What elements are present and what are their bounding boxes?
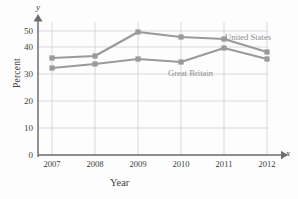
series-label-united-states: United States bbox=[225, 32, 271, 42]
x-tick-2008: 2008 bbox=[80, 159, 110, 169]
x-axis-letter: x bbox=[286, 148, 290, 158]
y-tick-0: 0 bbox=[17, 150, 33, 160]
series-line-great-britain bbox=[49, 45, 269, 70]
x-tick-2012: 2012 bbox=[252, 159, 282, 169]
line-chart: 50 40 30 20 10 0 2007 2008 2009 2010 201… bbox=[0, 0, 298, 199]
x-tick-2007: 2007 bbox=[37, 159, 67, 169]
series-label-great-britain: Great Britain bbox=[168, 68, 213, 78]
x-tick-2010: 2010 bbox=[166, 159, 196, 169]
x-axis-title: Year bbox=[110, 177, 129, 188]
y-axis-title: Percent bbox=[12, 43, 22, 103]
y-tick-50: 50 bbox=[17, 26, 33, 36]
x-tick-2009: 2009 bbox=[123, 159, 153, 169]
chart-plot-area bbox=[0, 0, 298, 199]
y-axis-letter: y bbox=[36, 2, 40, 12]
y-tick-10: 10 bbox=[17, 123, 33, 133]
x-tick-2011: 2011 bbox=[209, 159, 239, 169]
